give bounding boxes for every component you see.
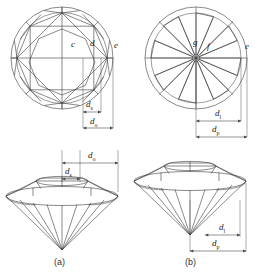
figure-diamond-cut-geometry: c d e g f e ds do dl dp do ds dl dp (a) … — [0, 0, 263, 274]
panel-a-profile-view — [6, 176, 118, 250]
dim-label-dl-b-profile: dl — [219, 222, 225, 234]
dim-label-do-a: do — [90, 116, 98, 128]
dim-label-do-a-profile: do — [88, 150, 96, 162]
dim-label-dp-b-profile: dp — [212, 238, 220, 250]
panel-a-crown-view — [11, 7, 113, 109]
caption-panel-a: (a) — [54, 257, 65, 267]
facet-label-d-a: d — [90, 38, 95, 48]
girdle-ellipse-b — [134, 172, 246, 191]
girdle-ellipse-a — [6, 187, 118, 206]
facet-label-e-a: e — [114, 40, 118, 50]
dim-label-ds-a-profile: ds — [65, 166, 72, 178]
dim-label-ds-a: ds — [86, 99, 93, 111]
dim-label-dl-b: dl — [215, 108, 221, 120]
facet-label-f-b: f — [207, 41, 210, 51]
caption-panel-b: (b) — [185, 257, 196, 267]
facet-label-c-a: c — [71, 39, 75, 49]
dim-label-dp-b: dp — [212, 124, 220, 136]
facet-label-e-b: e — [245, 41, 249, 51]
facet-label-g-b: g — [193, 37, 198, 47]
